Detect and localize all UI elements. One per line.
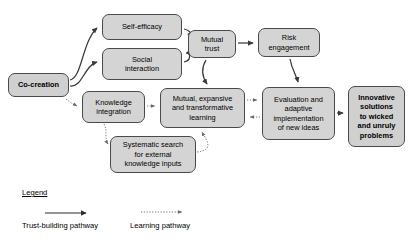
node-label-co-creation: Co-creation xyxy=(11,80,66,89)
node-label-risk-engagement: Risk engagement xyxy=(261,33,317,52)
edge-co-creation-to-social-interaction xyxy=(70,62,97,86)
legend-title: Legend xyxy=(22,188,47,197)
legend-label-learning: Learning pathway xyxy=(130,221,190,230)
node-label-innovative-solutions: Innovative solutions to wicked and unrul… xyxy=(351,93,402,140)
diagram-canvas: Co-creation Self-efficacy Social interac… xyxy=(0,0,409,240)
node-label-mutual-trust: Mutual trust xyxy=(191,35,233,54)
edge-systematic-search-to-learning xyxy=(197,132,208,152)
edge-risk-engagement-to-evaluation xyxy=(290,59,298,82)
node-social-interaction[interactable]: Social interaction xyxy=(102,48,182,80)
node-systematic-search[interactable]: Systematic search for external knowledge… xyxy=(110,136,196,173)
node-co-creation[interactable]: Co-creation xyxy=(8,73,69,97)
node-innovative-solutions[interactable]: Innovative solutions to wicked and unrul… xyxy=(348,86,405,147)
node-label-knowledge-integration: Knowledge integration xyxy=(85,98,142,117)
node-self-efficacy[interactable]: Self-efficacy xyxy=(102,14,182,40)
node-label-social-interaction: Social interaction xyxy=(105,55,179,74)
node-evaluation-adaptive-implementation[interactable]: Evaluation and adaptive implementation o… xyxy=(262,87,335,140)
node-risk-engagement[interactable]: Risk engagement xyxy=(258,28,320,57)
legend-label-trust-building: Trust-building pathway xyxy=(22,221,98,230)
node-label-self-efficacy: Self-efficacy xyxy=(105,22,179,31)
edge-mutual-trust-to-learning xyxy=(203,60,207,84)
node-label-mutual-expansive-learning: Mutual, expansive and transformative lea… xyxy=(163,94,242,122)
node-knowledge-integration[interactable]: Knowledge integration xyxy=(82,91,145,123)
node-label-systematic-search: Systematic search for external knowledge… xyxy=(113,140,193,168)
node-mutual-trust[interactable]: Mutual trust xyxy=(188,30,236,58)
node-mutual-expansive-learning[interactable]: Mutual, expansive and transformative lea… xyxy=(160,88,245,128)
edge-co-creation-to-knowledge-integration xyxy=(66,99,77,106)
edge-knowledge-integration-to-systematic-search xyxy=(104,124,108,144)
edge-co-creation-to-self-efficacy xyxy=(70,28,97,80)
node-label-evaluation-adaptive-implementation: Evaluation and adaptive implementation o… xyxy=(265,95,332,133)
